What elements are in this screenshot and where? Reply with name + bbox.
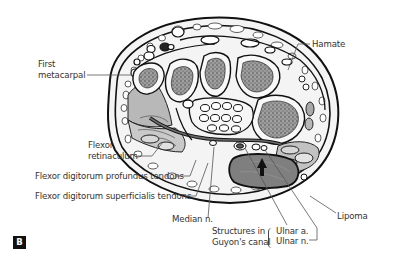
wrist-cross-section-figure: First metacarpal Hamate Flexor retinacul… [0, 0, 393, 262]
label-median-nerve: Median n. [172, 214, 213, 225]
label-ulnar-nerve: Ulnar n. [276, 236, 309, 247]
median-nerve [210, 141, 217, 146]
label-lipoma: Lipoma [337, 211, 368, 222]
label-fdp-tendons: Flexor digitorum profundus tendons [35, 171, 184, 182]
label-guyon-structures: Structures in Guyon's canal [212, 226, 271, 247]
label-fds-tendons: Flexor digitorum superficialis tendons [35, 191, 191, 202]
panel-label-badge: B [13, 236, 26, 249]
label-ulnar-artery: Ulnar a. [276, 226, 308, 237]
label-hamate: Hamate [312, 39, 345, 50]
label-flexor-retinaculum: Flexor retinaculum [88, 140, 138, 161]
label-first-metacarpal: First metacarpal [38, 59, 85, 80]
guyon-brace [268, 228, 274, 248]
